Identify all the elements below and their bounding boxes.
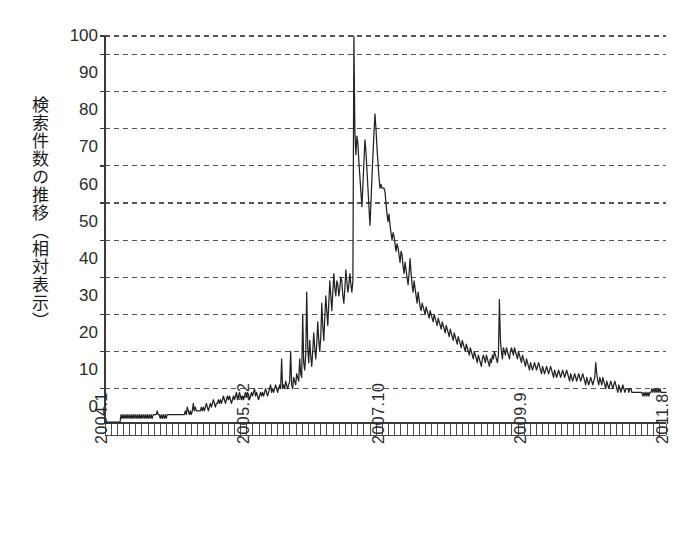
x-tick-label: 2005.12 — [235, 383, 253, 444]
x-tick-label: 2009.9 — [512, 392, 530, 444]
x-tick-label: 2011.8 — [654, 393, 672, 444]
x-tick-label: 2004.1 — [93, 392, 111, 444]
x-tick-label: 2007.10 — [370, 383, 388, 444]
data-series-line — [105, 36, 666, 422]
axis-lines — [100, 36, 666, 423]
search-volume-chart: 検索件数の推移（相対表示） 0102030405060708090100 200… — [0, 0, 692, 534]
x-axis-tick-labels: 2004.12005.122007.102009.92011.8 — [0, 440, 692, 534]
gridlines — [105, 36, 666, 389]
